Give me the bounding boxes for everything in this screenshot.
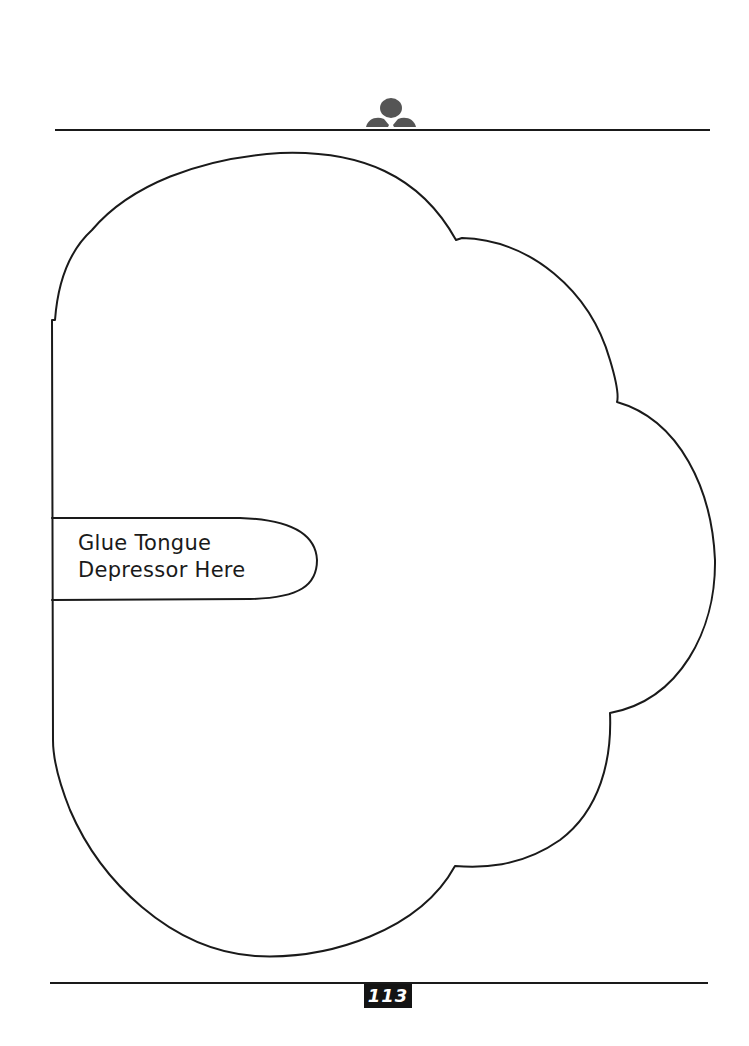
glue-tab-label: Glue Tongue Depressor Here: [78, 530, 298, 584]
cloud-template-outline: [0, 0, 749, 1046]
worksheet-page: Glue Tongue Depressor Here 113: [0, 0, 749, 1046]
glue-tab-label-line-1: Glue Tongue: [78, 530, 298, 557]
page-number-badge: 113: [364, 984, 412, 1008]
glue-tab-label-line-2: Depressor Here: [78, 557, 298, 584]
